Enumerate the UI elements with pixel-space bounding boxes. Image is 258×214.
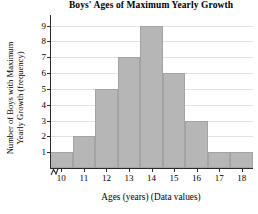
y-axis-title-text: Number of Boys with Maximum Yearly Growt… xyxy=(5,42,26,155)
plot-area: 123456789 101112131415161718 xyxy=(50,16,253,168)
bar xyxy=(95,89,118,168)
x-tick-label: 18 xyxy=(237,174,246,183)
bar xyxy=(208,152,231,168)
x-axis-line xyxy=(50,168,253,169)
y-tick-label: 1 xyxy=(42,148,47,157)
y-tick-label: 6 xyxy=(42,69,47,78)
bar xyxy=(230,152,253,168)
y-axis-title-line1: Number of Boys with Maximum xyxy=(5,42,15,155)
y-tick-label: 4 xyxy=(42,100,47,109)
y-axis-title-line2: Yearly Growth (frequency) xyxy=(15,42,26,155)
x-tick-label: 17 xyxy=(215,174,224,183)
bar xyxy=(73,136,96,168)
y-tick-label: 9 xyxy=(42,21,47,30)
y-tick-label: 2 xyxy=(42,132,47,141)
y-tick-label: 7 xyxy=(42,53,47,62)
y-axis-title: Number of Boys with Maximum Yearly Growt… xyxy=(2,22,28,174)
x-tick-label: 13 xyxy=(124,174,133,183)
bar xyxy=(185,121,208,169)
x-axis-title: Ages (years) (Data values) xyxy=(44,192,258,202)
y-tick-label: 5 xyxy=(42,84,47,93)
x-tick-label: 16 xyxy=(192,174,201,183)
y-axis-line xyxy=(50,15,51,168)
bar xyxy=(118,57,141,168)
x-tick-label: 14 xyxy=(147,174,156,183)
bar xyxy=(163,73,186,168)
axis-break-icon xyxy=(48,162,62,176)
x-tick-label: 11 xyxy=(79,174,88,183)
y-tick-label: 8 xyxy=(42,37,47,46)
x-tick-label: 12 xyxy=(102,174,111,183)
plot-inner: 123456789 101112131415161718 xyxy=(50,16,253,168)
y-tick-label: 3 xyxy=(42,116,47,125)
bar xyxy=(140,26,163,169)
x-tick-label: 15 xyxy=(170,174,179,183)
histogram-figure: Boys' Ages of Maximum Yearly Growth Numb… xyxy=(0,0,258,214)
chart-title: Boys' Ages of Maximum Yearly Growth xyxy=(44,0,258,10)
